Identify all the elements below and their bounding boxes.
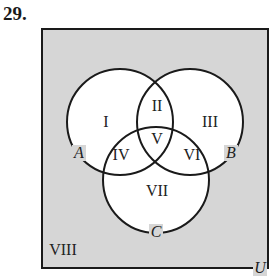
venn-diagram: I II III IV V VI VII VIII A B C U: [0, 0, 276, 277]
region-label-vi: VI: [184, 146, 201, 163]
region-label-iv: IV: [113, 146, 130, 163]
universe-label: U: [254, 259, 267, 276]
region-label-vii: VII: [146, 182, 168, 199]
region-label-v: V: [151, 130, 163, 147]
set-a-label: A: [73, 144, 84, 161]
region-label-viii: VIII: [49, 241, 77, 258]
region-label-iii: III: [202, 113, 218, 130]
set-c-label: C: [151, 223, 162, 240]
set-b-label: B: [226, 144, 236, 161]
region-label-i: I: [103, 113, 108, 130]
region-label-ii: II: [152, 97, 163, 114]
